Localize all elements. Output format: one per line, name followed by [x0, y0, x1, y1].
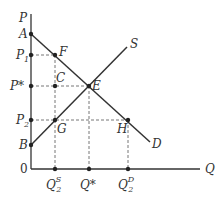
y-axis-label: P	[18, 11, 28, 25]
p1-label: P1	[15, 48, 29, 64]
p2-label: P2	[15, 113, 29, 129]
qstar-label: Q*	[80, 178, 96, 192]
point-e-label: E	[91, 79, 101, 93]
point-g-label: G	[57, 122, 67, 136]
qs2-label: QS2	[46, 175, 62, 194]
point-b-label: B	[18, 138, 28, 152]
point-c-label: C	[56, 71, 65, 85]
origin-label: 0	[20, 162, 28, 176]
point-a-label: A	[18, 27, 28, 41]
point-h-label: H	[116, 122, 128, 136]
supply-curve	[31, 47, 127, 145]
x-axis-label: Q	[205, 162, 215, 176]
supply-demand-diagram: P Q 0 A B F C E G H P1 P* P2 QS2 Q* QD2 …	[0, 0, 224, 200]
points	[29, 32, 130, 171]
guide-lines	[31, 55, 128, 169]
point-f-label: F	[58, 45, 68, 59]
supply-label: S	[130, 37, 138, 51]
pstar-label: P*	[9, 79, 24, 93]
qd2-label: QD2	[118, 175, 135, 194]
demand-label: D	[151, 137, 162, 151]
